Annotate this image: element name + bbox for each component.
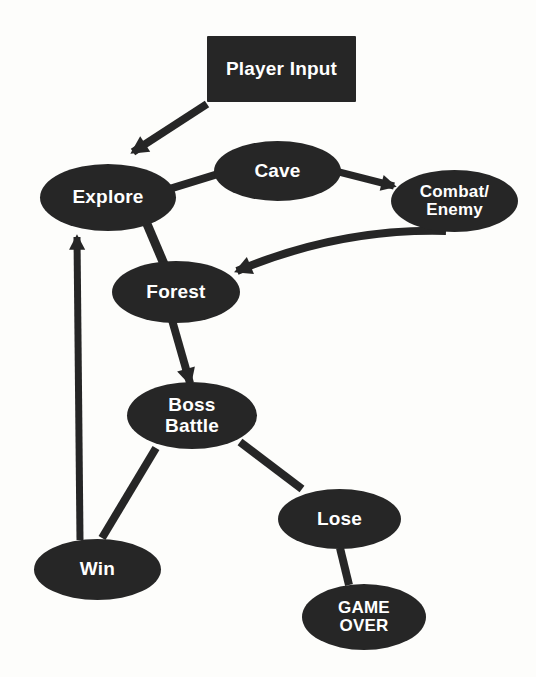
edge-line	[340, 548, 349, 585]
edge-boss-battle-to-lose	[240, 442, 302, 489]
node-label-cave: Cave	[250, 161, 304, 182]
node-label-combat-enemy: Combat/ Enemy	[416, 183, 493, 220]
node-player-input[interactable]: Player Input	[207, 36, 356, 102]
node-label-boss-battle: Boss Battle	[161, 395, 223, 436]
edge-explore-to-forest	[147, 224, 164, 264]
node-label-win: Win	[76, 559, 119, 580]
node-boss-battle[interactable]: Boss Battle	[127, 382, 257, 449]
node-label-forest: Forest	[142, 282, 209, 303]
node-label-player-input: Player Input	[222, 59, 341, 80]
node-label-lose: Lose	[313, 509, 366, 530]
node-combat-enemy[interactable]: Combat/ Enemy	[391, 170, 518, 232]
node-explore[interactable]: Explore	[40, 164, 176, 231]
edge-forest-to-boss-battle	[172, 320, 195, 386]
edge-line	[77, 237, 80, 540]
edge-lose-to-game-over	[340, 548, 349, 585]
edge-explore-to-cave	[166, 174, 218, 190]
node-lose[interactable]: Lose	[278, 489, 401, 549]
edge-combat-enemy-to-forest	[234, 231, 446, 274]
edge-cave-to-combat-enemy	[339, 172, 397, 191]
edge-line	[166, 174, 218, 190]
edge-player-input-to-explore	[130, 104, 207, 154]
edge-win-to-explore	[69, 234, 85, 540]
edge-line	[240, 442, 302, 489]
node-label-explore: Explore	[68, 187, 147, 208]
arrowhead-icon	[69, 234, 85, 250]
edge-line	[102, 448, 156, 538]
node-label-game-over: GAME OVER	[334, 599, 394, 636]
node-win[interactable]: Win	[34, 539, 161, 600]
diagram-canvas: Player InputExploreCaveCombat/ EnemyFore…	[0, 0, 536, 677]
edge-line	[147, 224, 164, 264]
edge-boss-battle-to-win	[102, 448, 156, 538]
node-game-over[interactable]: GAME OVER	[302, 584, 426, 650]
node-cave[interactable]: Cave	[214, 141, 341, 201]
edge-line	[237, 231, 446, 271]
node-forest[interactable]: Forest	[112, 261, 240, 323]
